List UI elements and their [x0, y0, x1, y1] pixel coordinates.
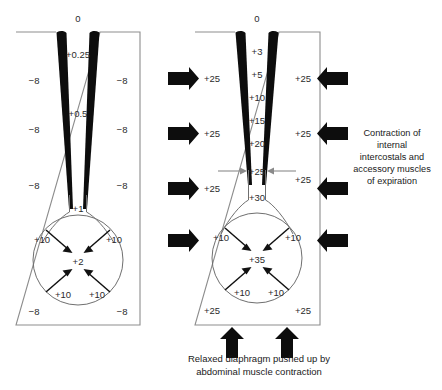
right-diaphragm-value-0: +10	[213, 232, 229, 243]
right-airway-value-0: +3	[252, 46, 263, 57]
left-pleural-right-1: −8	[117, 124, 128, 135]
right-side-arrow-4	[317, 229, 348, 252]
bottom-caption-line-2: abdominal muscle contraction	[196, 366, 322, 377]
left-airway-value-1: +0.5	[69, 108, 88, 119]
right-panel-forced-expiration: 0 +3 +5 +10 +15 +20 +25 +30 +25 +25 +25 …	[195, 13, 320, 325]
bottom-caption: Relaxed diaphragm pushed up by abdominal…	[188, 353, 330, 377]
left-bronchus-value: +1	[73, 203, 84, 214]
right-pleural-left-3: +25	[204, 305, 220, 316]
left-panel-passive-expiration: 0 +0.25 +0.5 −8 −8 −8 −8 −8 −8 −8 −8 +1 …	[16, 13, 140, 325]
right-airway-value-2: +10	[249, 92, 265, 103]
right-pleural-right-1: +25	[295, 128, 311, 139]
figure-canvas: 0 +0.25 +0.5 −8 −8 −8 −8 −8 −8 −8 −8 +1 …	[0, 0, 442, 390]
right-mouth-pressure: 0	[254, 13, 259, 24]
right-diaphragm-value-3: +10	[268, 287, 284, 298]
right-alveolar-value: +35	[249, 254, 265, 265]
left-pleural-left-1: −8	[29, 124, 40, 135]
right-airway-value-3: +15	[249, 115, 265, 126]
right-side-arrow-2	[317, 122, 348, 145]
right-airway-value-1: +5	[252, 69, 263, 80]
left-side-arrow-4	[168, 229, 199, 252]
left-diaphragm-value-2: +10	[55, 289, 71, 300]
right-airway-wall-right	[262, 31, 279, 185]
side-annotation: Contraction of internal intercostals and…	[353, 128, 431, 186]
bottom-caption-line-1: Relaxed diaphragm pushed up by	[188, 353, 330, 364]
right-pleural-right-3: +25	[295, 305, 311, 316]
left-airway-value-0: +0.25	[66, 49, 90, 60]
left-pleural-right-0: −8	[117, 75, 128, 86]
left-side-arrow-1	[168, 67, 199, 90]
left-pleural-left-2: −8	[29, 180, 40, 191]
right-airway-value-5: +25	[249, 166, 265, 177]
left-mouth-pressure: 0	[75, 13, 80, 24]
right-pleural-left-1: +25	[204, 128, 220, 139]
side-annotation-line-0: Contraction of	[363, 128, 421, 138]
right-diaphragm-value-2: +10	[234, 287, 250, 298]
right-airway-value-6: +30	[249, 192, 265, 203]
right-side-arrow-3	[317, 177, 348, 200]
side-annotation-line-2: intercostals and	[360, 152, 424, 162]
left-pleural-left-3: −8	[29, 306, 40, 317]
right-pleural-right-2: +25	[295, 174, 311, 185]
right-pleural-right-0: +25	[295, 73, 311, 84]
side-annotation-line-1: internal	[377, 140, 407, 150]
left-diaphragm-value-3: +10	[89, 289, 105, 300]
intercostal-arrows-right	[317, 67, 348, 252]
right-airway-value-4: +20	[249, 138, 265, 149]
right-pleural-left-2: +25	[204, 183, 220, 194]
left-diaphragm-value-0: +10	[34, 234, 50, 245]
intercostal-arrows-left	[168, 67, 199, 252]
left-side-arrow-3	[168, 177, 199, 200]
left-pleural-right-3: −8	[117, 306, 128, 317]
left-alveolar-value: +2	[73, 256, 84, 267]
left-side-arrow-2	[168, 122, 199, 145]
right-side-arrow-1	[317, 67, 348, 90]
left-diaphragm-value-1: +10	[106, 234, 122, 245]
left-pleural-right-2: −8	[117, 180, 128, 191]
right-diaphragm-value-1: +10	[285, 232, 301, 243]
side-annotation-line-4: of expiration	[367, 176, 417, 186]
respiration-pressure-diagram: 0 +0.25 +0.5 −8 −8 −8 −8 −8 −8 −8 −8 +1 …	[0, 0, 442, 390]
right-airway-wall-left	[236, 31, 253, 185]
right-pleural-left-0: +25	[204, 73, 220, 84]
side-annotation-line-3: accessory muscles	[353, 164, 431, 174]
left-pleural-left-0: −8	[29, 75, 40, 86]
